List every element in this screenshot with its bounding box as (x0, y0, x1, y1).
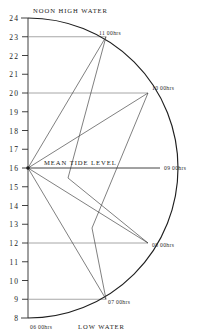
hour-label-11: 11 00hrs (99, 30, 121, 36)
axis-tick-19: 19 (9, 108, 19, 117)
hour-label-10: 10 00hrs (152, 85, 174, 91)
axis-tick-14: 14 (9, 202, 19, 211)
hour-label-08: 08 00hrs (152, 242, 174, 248)
axis-tick-21: 21 (9, 70, 19, 79)
axis-tick-16: 16 (9, 164, 19, 173)
axis-tick-23: 23 (9, 33, 19, 42)
low-water-label: LOW WATER (78, 323, 125, 330)
mean-tide-centre-point (26, 166, 30, 170)
axis-tick-13: 13 (9, 220, 19, 229)
hour-label-06: 06 00hrs (30, 324, 52, 330)
hour-radials (28, 37, 160, 300)
axis-tick-17: 17 (9, 145, 19, 154)
tide-diagram-canvas: 24 23 22 21 20 19 18 17 16 15 14 13 12 1… (0, 0, 207, 335)
axis-tick-12: 12 (9, 239, 19, 248)
axis-tick-labels: 24 23 22 21 20 19 18 17 16 15 14 13 12 1… (9, 14, 19, 323)
axis-tick-8: 8 (14, 314, 19, 323)
axis-tick-24: 24 (9, 14, 19, 23)
tide-diagram: 24 23 22 21 20 19 18 17 16 15 14 13 12 1… (0, 0, 207, 335)
axis-tick-20: 20 (9, 89, 19, 98)
axis-tick-9: 9 (14, 295, 19, 304)
axis-tick-22: 22 (9, 52, 19, 61)
axis-tick-10: 10 (9, 277, 19, 286)
hour-labels: 11 00hrs 10 00hrs 09 00hrs 08 00hrs 07 0… (30, 30, 186, 330)
axis-tick-15: 15 (9, 183, 19, 192)
hour-label-07: 07 00hrs (108, 299, 130, 305)
axis-tick-11: 11 (10, 258, 19, 267)
mean-tide-level-label: MEAN TIDE LEVEL (44, 159, 117, 166)
noon-high-water-label: NOON HIGH WATER (33, 7, 108, 14)
axis-tick-18: 18 (9, 127, 19, 136)
hour-label-09: 09 00hrs (164, 165, 186, 171)
